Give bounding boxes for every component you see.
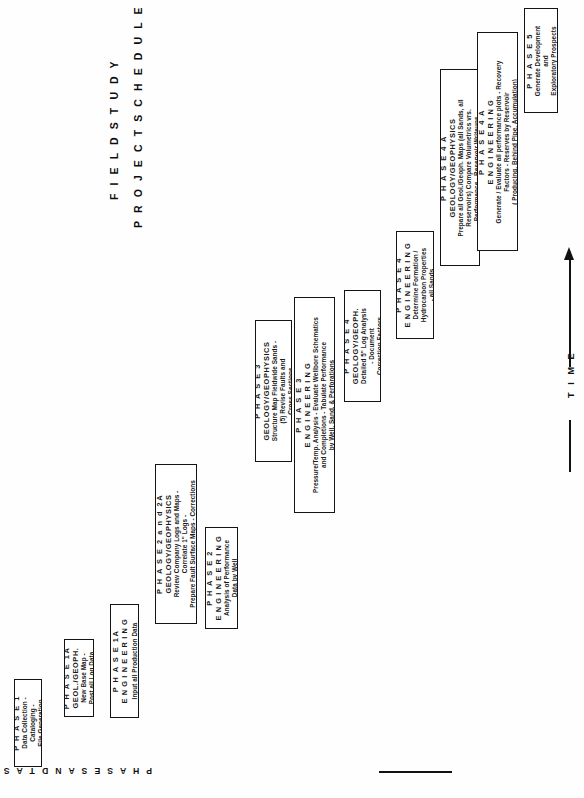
phase-4a-geol-title: P H A S E 4 A — [440, 70, 448, 265]
phase-4a-eng-discipline: E N G I N E E R I N G — [486, 33, 495, 250]
phase-3-eng-line-2: and Completions - Tabulate Performance — [320, 298, 328, 512]
phase-1-title: P H A S E 1 — [14, 680, 21, 766]
phase-3-eng-line-1: Pressure/Temp. Analysis - Evaluate Wellb… — [312, 298, 320, 512]
phase-4-geol-discipline: GEOLOGY/GEOPH. — [351, 291, 360, 401]
phase-2-2a-title: P H A S E 2 a n d 2A — [155, 465, 164, 623]
phase-1a-geol-discipline: GEOL./GEOPH. — [71, 640, 80, 716]
phase-box-phase-1a-geology[interactable]: P H A S E 1A GEOL./GEOPH. New Base Map -… — [64, 639, 94, 717]
phase-3-eng-discipline: E N G I N E E R I N G — [303, 298, 312, 512]
phase-3-geol-line-1: Structure Map Fieldwide Sands - — [271, 321, 279, 461]
phase-4a-eng-line-3: ( Producing, Behind Pipe, Accumulation) — [510, 33, 518, 250]
phase-1a-eng-line-1: Input all Production Data — [131, 605, 139, 717]
phase-5-title: P H A S E 5 — [525, 9, 534, 112]
phase-box-phase-5[interactable]: P H A S E 5 Generate Development and Exp… — [524, 8, 558, 113]
axis-label-time: T I M E — [566, 351, 576, 398]
phase-3-geol-discipline: GEOLOGY/GEOPHYSICS — [262, 321, 271, 461]
phase-2-2a-discipline: GEOLOGY/GEOPHYSICS — [164, 465, 173, 623]
phase-box-phase-2-and-2a-geology[interactable]: P H A S E 2 a n d 2A GEOLOGY/GEOPHYSICS … — [155, 464, 197, 624]
axis-rule-phases — [379, 771, 452, 773]
phase-4-eng-discipline: E N G I N E E R I N G — [403, 232, 412, 338]
phase-2-2a-line-2: Correlate 1" Logs - — [181, 465, 189, 623]
phase-4-eng-line-1: Determine Formation / — [412, 232, 420, 338]
schedule-sheet: F I E L D S T U D Y P R O J E C T S C H … — [0, 0, 584, 798]
phase-box-phase-1a-engineering[interactable]: P H A S E 1A E N G I N E E R I N G Input… — [110, 604, 139, 718]
phase-2-2a-line-3: Prepare Fault Surface Maps - Corrections — [189, 465, 197, 623]
phase-2-eng-line-1: Analysis of Performance — [223, 528, 231, 628]
phase-box-phase-4a-geology[interactable]: P H A S E 4 A GEOLOGY/GEOPHYSICS Prepare… — [440, 69, 480, 266]
phase-box-phase-1[interactable]: P H A S E 1 Data Collection - Cataloging… — [14, 679, 42, 767]
phase-3-geol-line-3: Cross Sections — [286, 321, 292, 461]
phase-4a-geol-line-1: Prepare all Geol./Geoph. Maps (all Sands… — [457, 70, 465, 265]
phase-4-geol-line-2: - Document — [368, 291, 376, 401]
phase-3-eng-title: P H A S E 3 — [294, 298, 303, 512]
phase-box-phase-4a-engineering[interactable]: P H A S E 4 A E N G I N E E R I N G Gene… — [477, 32, 518, 251]
phase-2-eng-discipline: E N G I N E E R I N G — [214, 528, 223, 628]
phase-2-2a-line-1: Review Company Logs and Maps - — [173, 465, 181, 623]
phase-4-geol-line-1: Detailed 5" Log Analysis — [360, 291, 368, 401]
axis-label-phases-and-tasks: P H A S E S A N D T A S K S — [0, 766, 152, 776]
page-title-project-schedule: P R O J E C T S C H E D U L E — [132, 5, 144, 228]
phase-box-phase-3-engineering[interactable]: P H A S E 3 E N G I N E E R I N G Pressu… — [294, 297, 335, 513]
phase-box-phase-4-engineering[interactable]: P H A S E 4 E N G I N E E R I N G Determ… — [396, 231, 434, 339]
axis-rule-time — [569, 420, 571, 472]
phase-box-phase-2-engineering[interactable]: P H A S E 2 E N G I N E E R I N G Analys… — [205, 527, 238, 629]
phase-5-line-1: Generate Development — [534, 9, 542, 112]
phase-2-eng-title: P H A S E 2 — [205, 528, 214, 628]
phase-4a-eng-title: P H A S E 4 A — [477, 33, 486, 250]
phase-1-line-2: Cataloging - — [29, 680, 37, 766]
phase-4-geol-line-3: Correction Factors — [375, 291, 381, 401]
phase-1a-geol-line-1: New Base Map - — [80, 640, 88, 716]
phase-1-line-3: File Generation — [36, 680, 42, 766]
phase-1-line-1: Data Collection - — [21, 680, 29, 766]
phase-box-phase-3-geology[interactable]: P H A S E 3 GEOLOGY/GEOPHYSICS Structure… — [255, 320, 292, 462]
phase-5-line-2: and — [542, 9, 550, 112]
phase-1a-geol-title: P H A S E 1A — [64, 640, 71, 716]
phase-4a-eng-line-2: Factors - Reserves by Reservoir — [503, 33, 511, 250]
phase-4a-eng-line-1: Generate / Evaluate all performance plot… — [495, 33, 503, 250]
phase-1a-eng-title: P H A S E 1A — [111, 605, 120, 717]
phase-3-geol-title: P H A S E 3 — [255, 321, 262, 461]
page-title-field-study: F I E L D S T U D Y — [108, 59, 120, 200]
phase-4a-geol-discipline: GEOLOGY/GEOPHYSICS — [448, 70, 457, 265]
phase-4-eng-title: P H A S E 4 — [396, 232, 403, 338]
phase-5-line-3: Exploratory Prospects — [549, 9, 557, 112]
phase-4-eng-line-2: Hydrocarbon Properties — [420, 232, 428, 338]
phase-box-phase-4-geology[interactable]: P H A S E 4 GEOLOGY/GEOPH. Detailed 5" L… — [344, 290, 381, 402]
phase-1a-geol-line-2: Post all Log Data — [88, 640, 94, 716]
phase-2-eng-line-2: Data by Well — [231, 528, 238, 628]
phase-4-geol-title: P H A S E 4 — [344, 291, 351, 401]
phase-4a-geol-line-2: Reservoirs) Compare Volumetrics vrs. — [465, 70, 473, 265]
phase-3-geol-line-2: (5) Revise Faults and — [279, 321, 287, 461]
phase-3-eng-line-3: by Well, Sand, & Perforations — [327, 298, 335, 512]
phase-1a-eng-discipline: E N G I N E E R I N G — [120, 605, 129, 717]
phase-4-eng-line-3: - all Sands — [428, 232, 434, 338]
